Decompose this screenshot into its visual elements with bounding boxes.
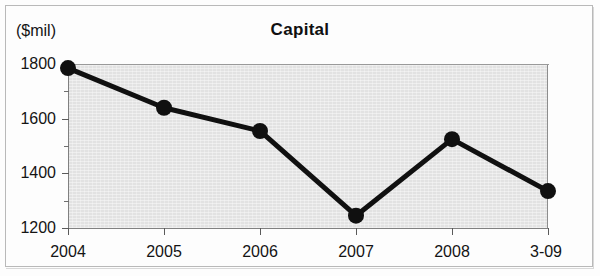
y-tick-mark-1800	[62, 64, 69, 65]
x-tick-mark-2008	[452, 228, 453, 235]
x-tick-label-3-09: 3-09	[530, 243, 562, 261]
chart-title: Capital	[0, 20, 600, 40]
y-tick-mark-1400	[62, 173, 69, 174]
x-tick-mark-2007	[356, 228, 357, 235]
y-tick-label-1800: 1800	[20, 55, 56, 73]
x-tick-label-2005: 2005	[146, 243, 182, 261]
x-tick-mark-3-09	[548, 228, 549, 235]
x-tick-mark-2006	[260, 228, 261, 235]
x-axis-line	[68, 228, 549, 229]
x-tick-label-2006: 2006	[242, 243, 278, 261]
x-tick-label-2008: 2008	[434, 243, 470, 261]
y-tick-mark-1500-minor	[64, 146, 69, 147]
y-tick-mark-1700-minor	[64, 91, 69, 92]
y-tick-label-1200: 1200	[20, 219, 56, 237]
x-tick-label-2004: 2004	[50, 243, 86, 261]
y-axis-units-label: ($mil)	[16, 22, 56, 40]
y-tick-mark-1600	[62, 119, 69, 120]
plot-top-gridline	[68, 64, 549, 65]
chart-figure: Capital ($mil) 1800 1600 1400 1200 2004 …	[0, 0, 600, 276]
x-tick-mark-2005	[164, 228, 165, 235]
x-tick-mark-2004	[68, 228, 69, 235]
y-tick-label-1600: 1600	[20, 110, 56, 128]
y-tick-mark-1300-minor	[64, 201, 69, 202]
plot-background-texture	[68, 64, 547, 228]
y-tick-label-1400: 1400	[20, 164, 56, 182]
x-tick-label-2007: 2007	[338, 243, 374, 261]
plot-area	[68, 64, 548, 228]
